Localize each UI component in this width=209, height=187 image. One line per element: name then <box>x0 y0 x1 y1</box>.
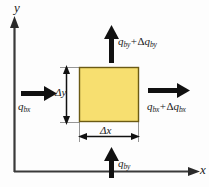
x-axis-label: x <box>200 163 206 176</box>
x-axis-arrowhead <box>188 167 200 176</box>
y-axis-label: y <box>14 1 20 14</box>
delta-y-label-text: Δy <box>55 86 66 98</box>
flux-arrow-top-head <box>104 25 119 39</box>
flux-label-top: qby+Δqby <box>118 36 157 49</box>
flux-arrow-top <box>104 25 119 63</box>
flux-arrow-right-head <box>177 83 190 98</box>
y-axis-label-text: y <box>14 0 20 15</box>
control-volume-box <box>80 68 139 122</box>
flux-arrow-right <box>148 83 190 98</box>
x-axis-label-text: x <box>200 162 206 177</box>
flux-bottom-subscript: by <box>124 162 131 171</box>
delta-y-arrowhead-down <box>63 116 70 125</box>
delta-y-arrowhead-up <box>63 65 70 74</box>
y-axis-arrowhead <box>10 16 19 28</box>
flux-left-subscript: bx <box>24 105 31 114</box>
flux-right-subscript-2: bx <box>179 105 186 114</box>
delta-x-label: Δx <box>100 125 111 136</box>
flux-arrow-left <box>21 86 57 101</box>
flux-top-subscript-2: by <box>150 40 157 49</box>
flux-balance-diagram: y x qby+Δqby qbx+Δqbx qbx qby Δy Δx <box>0 0 209 187</box>
flux-label-left: qbx <box>18 101 30 114</box>
flux-arrow-bottom-head <box>104 147 119 161</box>
delta-y-label: Δy <box>55 87 66 98</box>
flux-label-bottom: qby <box>118 158 130 171</box>
diagram-canvas <box>0 0 209 187</box>
flux-arrow-bottom <box>104 147 119 178</box>
flux-label-right: qbx+Δqbx <box>147 101 186 114</box>
delta-x-label-text: Δx <box>100 124 111 136</box>
